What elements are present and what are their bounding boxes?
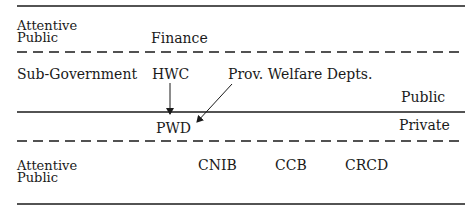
node-finance: Finance: [151, 32, 208, 44]
node-ccb: CCB: [275, 159, 307, 171]
band-label-bottom-attentive-public: Attentive Public: [17, 160, 87, 184]
sector-label-public: Public: [401, 91, 445, 103]
band-label-top-attentive-public: Attentive Public: [17, 20, 87, 44]
band-label-text: Attentive Public: [17, 160, 87, 184]
band-label-text: Attentive Public: [17, 20, 87, 44]
arrow-prov-to-pwd: [197, 84, 232, 122]
node-hwc: HWC: [152, 68, 189, 80]
sector-label-private: Private: [399, 119, 450, 131]
node-pwd: PWD: [156, 122, 191, 134]
node-prov-welfare-depts: Prov. Welfare Depts.: [228, 68, 372, 80]
band-label-sub-government: Sub-Government: [17, 68, 137, 80]
node-cnib: CNIB: [198, 159, 237, 171]
node-crcd: CRCD: [345, 159, 388, 171]
